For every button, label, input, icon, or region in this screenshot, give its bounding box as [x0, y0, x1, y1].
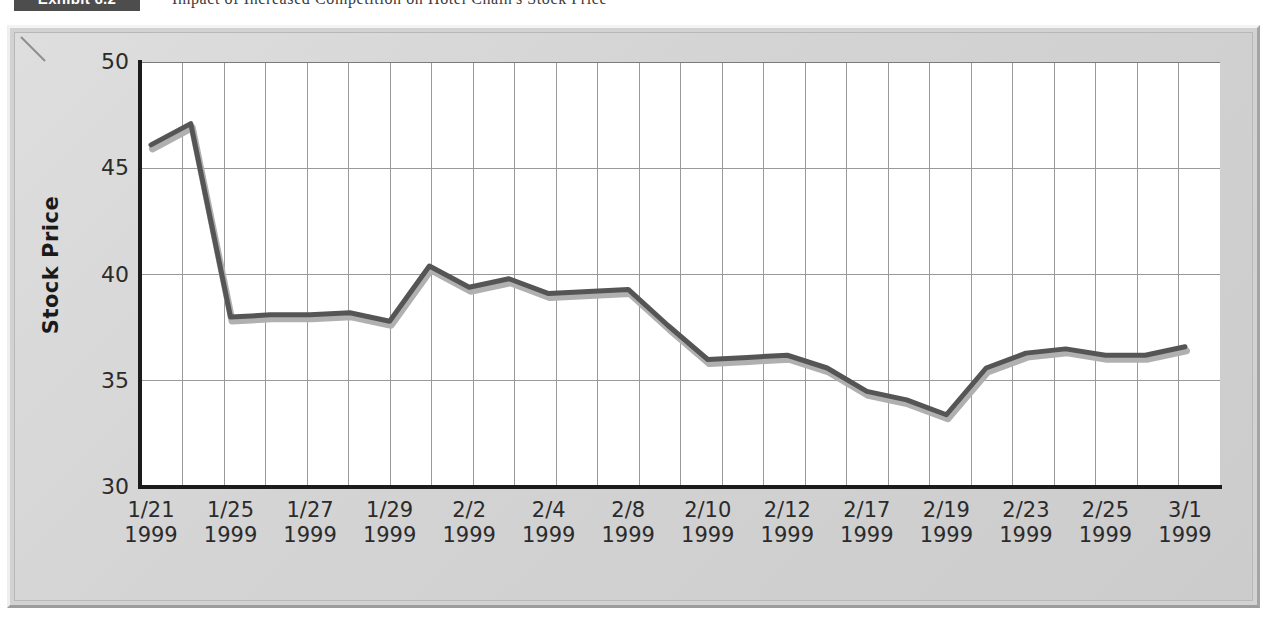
x-tick-label: 2/21999 [426, 498, 512, 548]
x-tick-year: 1999 [108, 523, 194, 548]
x-tick-year: 1999 [267, 523, 353, 548]
x-axis-spine [138, 485, 1222, 489]
x-tick-year: 1999 [903, 523, 989, 548]
x-tick-date: 1/29 [347, 498, 433, 523]
x-tick-label: 1/291999 [347, 498, 433, 548]
x-tick-date: 2/2 [426, 498, 512, 523]
x-tick-date: 2/25 [1062, 498, 1148, 523]
x-tick-date: 2/19 [903, 498, 989, 523]
x-tick-date: 1/25 [188, 498, 274, 523]
y-tick-label: 50 [83, 51, 129, 73]
x-tick-label: 2/41999 [506, 498, 592, 548]
x-tick-year: 1999 [1062, 523, 1148, 548]
x-tick-label: 2/191999 [903, 498, 989, 548]
x-tick-year: 1999 [1142, 523, 1228, 548]
y-tick-label: 35 [83, 370, 129, 392]
series-line-shadow [153, 128, 1187, 419]
x-tick-label: 2/121999 [744, 498, 830, 548]
x-tick-year: 1999 [824, 523, 910, 548]
y-tick-label: 30 [83, 476, 129, 498]
plot-svg [141, 62, 1220, 487]
x-tick-date: 2/17 [824, 498, 910, 523]
x-tick-label: 1/271999 [267, 498, 353, 548]
x-tick-date: 1/27 [267, 498, 353, 523]
x-tick-label: 1/211999 [108, 498, 194, 548]
x-tick-date: 1/21 [108, 498, 194, 523]
x-tick-label: 2/231999 [983, 498, 1069, 548]
y-tick-label: 45 [83, 157, 129, 179]
y-tick-label: 40 [83, 264, 129, 286]
x-tick-date: 2/4 [506, 498, 592, 523]
x-tick-label: 2/81999 [585, 498, 671, 548]
x-tick-label: 2/101999 [665, 498, 751, 548]
x-tick-date: 3/1 [1142, 498, 1228, 523]
x-tick-label: 1/251999 [188, 498, 274, 548]
x-tick-label: 3/11999 [1142, 498, 1228, 548]
x-tick-year: 1999 [665, 523, 751, 548]
x-tick-year: 1999 [506, 523, 592, 548]
x-tick-date: 2/12 [744, 498, 830, 523]
x-tick-year: 1999 [347, 523, 433, 548]
x-tick-date: 2/23 [983, 498, 1069, 523]
x-tick-date: 2/10 [665, 498, 751, 523]
x-tick-label: 2/251999 [1062, 498, 1148, 548]
plot-area [141, 62, 1220, 487]
x-tick-year: 1999 [983, 523, 1069, 548]
chart: Stock Price 3035404550 1/2119991/2519991… [0, 0, 1274, 625]
x-tick-year: 1999 [188, 523, 274, 548]
x-tick-year: 1999 [744, 523, 830, 548]
x-tick-date: 2/8 [585, 498, 671, 523]
y-axis-title: Stock Price [39, 185, 63, 345]
x-tick-year: 1999 [585, 523, 671, 548]
x-tick-year: 1999 [426, 523, 512, 548]
x-tick-label: 2/171999 [824, 498, 910, 548]
series-line-stock-price [151, 124, 1185, 415]
y-axis-spine [138, 60, 142, 489]
